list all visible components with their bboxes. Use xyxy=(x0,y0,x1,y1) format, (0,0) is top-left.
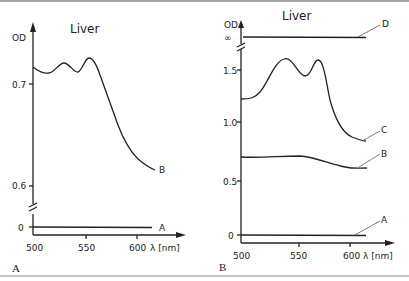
panel-b-curve-a xyxy=(241,235,366,236)
panel-b-ytick-0: 0 xyxy=(228,231,234,241)
panel-b-curve-c-label: C xyxy=(381,125,387,135)
panel-b-ylabel: OD xyxy=(224,20,238,30)
panel-b-xtick-600: 600 xyxy=(343,251,360,261)
figure: Liver OD 0.7 0.6 0 500 550 600 λ [nm] A … xyxy=(0,0,409,281)
panel-b: Liver OD ∞ 1.5 1.0 0.5 0 500 550 600 λ [… xyxy=(219,9,395,273)
panel-a-ytick-0.6: 0.6 xyxy=(12,181,27,191)
panel-a-label: A xyxy=(12,262,20,274)
panel-a-ytick-0.7: 0.7 xyxy=(12,80,26,90)
panel-b-x-arrow-icon xyxy=(385,240,395,246)
panel-b-ytick-1.5: 1.5 xyxy=(223,66,237,76)
panel-b-curve-d-label: D xyxy=(382,19,389,29)
panel-a-xlabel: λ [nm] xyxy=(150,243,180,253)
panel-b-curve-b xyxy=(241,156,367,168)
panel-a-axis-break-icon xyxy=(29,203,37,211)
panel-b-curve-d xyxy=(243,37,366,38)
panel-b-label: B xyxy=(219,261,226,273)
panel-a-xtick-550: 550 xyxy=(78,243,95,253)
panel-b-title: Liver xyxy=(282,9,312,23)
panel-a-curve-b-label: B xyxy=(159,165,165,175)
panel-a-curve-a xyxy=(33,227,152,228)
panel-a-title: Liver xyxy=(70,22,100,36)
panel-a-ytick-0: 0 xyxy=(18,223,24,233)
panel-b-xlabel: λ [nm] xyxy=(363,251,393,261)
panel-b-ytick-0.5: 0.5 xyxy=(223,177,237,187)
panel-b-xtick-500: 500 xyxy=(233,251,250,261)
panel-b-ytick-inf: ∞ xyxy=(224,33,232,43)
panel-a-curve-a-label: A xyxy=(159,223,166,233)
panel-a-xtick-500: 500 xyxy=(26,243,43,253)
panel-b-xtick-550: 550 xyxy=(290,251,307,261)
panel-b-ytick-1.0: 1.0 xyxy=(223,118,238,128)
panel-b-y-arrow-icon xyxy=(238,20,244,28)
panel-b-curve-b-label: B xyxy=(381,149,387,159)
panel-a-x-arrow-icon xyxy=(176,232,186,238)
panel-a-curve-b xyxy=(33,58,155,170)
panel-a: Liver OD 0.7 0.6 0 500 550 600 λ [nm] A … xyxy=(12,22,186,274)
panel-a-y-arrow-icon xyxy=(30,22,36,32)
panel-a-xtick-600: 600 xyxy=(129,243,146,253)
panel-b-curve-a-label: A xyxy=(381,215,388,225)
panel-b-curve-c xyxy=(241,59,366,141)
panel-a-ylabel: OD xyxy=(12,33,26,43)
